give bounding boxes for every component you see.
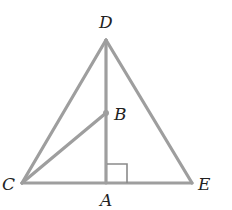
label-C: C (2, 174, 15, 194)
label-B: B (113, 104, 127, 124)
segment-CB (22, 113, 106, 183)
segment-DC (22, 40, 106, 183)
geometry-diagram: D B C A E (0, 0, 232, 210)
label-A: A (98, 190, 112, 210)
label-D: D (98, 12, 113, 32)
point-B-dot (103, 110, 109, 116)
label-E: E (197, 174, 211, 194)
right-angle-marker (107, 164, 127, 183)
